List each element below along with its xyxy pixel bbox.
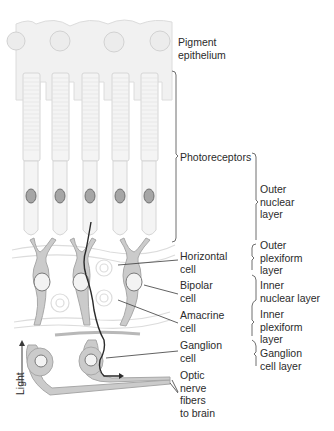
label-horizontal-cell: Horizontal cell	[180, 250, 227, 275]
photoreceptor-5	[141, 73, 158, 235]
ganglion-cells	[26, 332, 170, 395]
label-ganglion-cell-layer: Ganglion cell layer	[260, 347, 302, 372]
photoreceptor-1	[23, 73, 40, 235]
label-ganglion-cell: Ganglion cell	[180, 339, 222, 364]
label-photoreceptors: Photoreceptors	[180, 151, 251, 164]
photoreceptor-2	[52, 73, 69, 235]
label-light: Light	[14, 372, 26, 395]
label-bipolar-cell: Bipolar cell	[180, 279, 213, 304]
label-inner-nuclear-layer: Inner nuclear layer	[260, 279, 320, 304]
label-amacrine-cell: Amacrine cell	[180, 309, 224, 334]
photoreceptor-4	[112, 73, 129, 235]
label-outer-plexiform-layer: Outer plexiform layer	[260, 239, 303, 277]
label-inner-plexiform-layer: Inner plexiform layer	[260, 308, 303, 346]
label-optic-nerve-fibers: Optic nerve fibers to brain	[180, 369, 215, 419]
label-outer-nuclear-layer: Outer nuclear layer	[260, 183, 294, 221]
photoreceptor-3	[82, 73, 99, 235]
label-pigment-epithelium: Pigment epithelium	[178, 36, 226, 61]
bipolar-cells	[30, 238, 150, 326]
